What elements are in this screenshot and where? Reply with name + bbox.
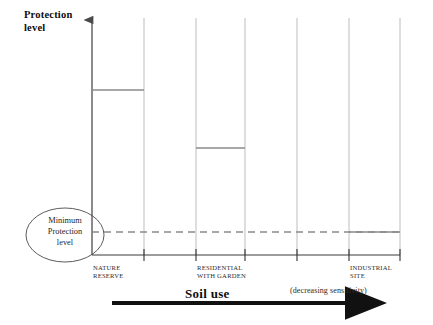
x-tick-label-nature-reserve: NATURE RESERVE (93, 264, 153, 281)
x-axis-title: Soil use (185, 287, 230, 300)
figure-container: Protection level Soil use NATURE RESERVE… (0, 0, 433, 325)
x-axis (92, 249, 400, 261)
protection-level-steps (92, 90, 400, 232)
x-tick-label-industrial-site: INDUSTRIAL SITE (350, 264, 416, 281)
vertical-gridlines (144, 18, 400, 255)
x-tick-label-residential-with-garden: RESIDENTIAL WITH GARDEN (197, 264, 267, 281)
y-axis-title: Protection level (24, 8, 96, 34)
callout-minimum-protection-label: Minimum Protection level (27, 215, 103, 248)
sensitivity-annotation: (decreasing sensitivity) (290, 286, 367, 295)
